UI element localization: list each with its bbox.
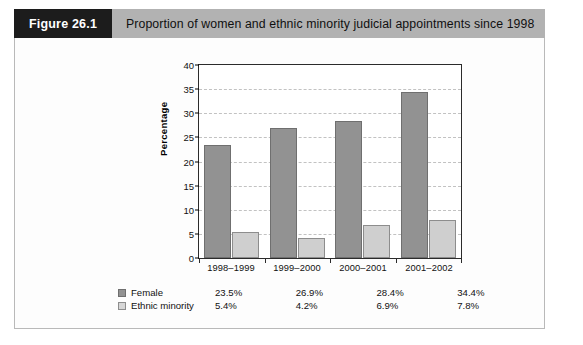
legend-value: 34.4%: [457, 287, 538, 298]
x-axis-labels: 1998–19991999–20002000–20012001–2002: [198, 263, 462, 273]
legend-values: 5.4%4.2%6.9%7.8%: [215, 300, 538, 311]
figure-number-tag: Figure 26.1: [14, 9, 112, 38]
plot-frame: 0510152025303540: [198, 64, 462, 259]
bar-female[interactable]: [204, 145, 231, 258]
bar-female[interactable]: [270, 128, 297, 258]
legend-row: Ethnic minority5.4%4.2%6.9%7.8%: [118, 299, 538, 312]
chart-area: Percentage 0510152025303540 1998–1999199…: [14, 38, 545, 329]
x-axis-tick-label: 1998–1999: [198, 263, 264, 273]
bar-ethnic-minority[interactable]: [232, 232, 259, 258]
y-axis-tick-mark: [195, 161, 199, 162]
bar-ethnic-minority[interactable]: [363, 225, 390, 258]
x-axis-tick-label: 2001–2002: [396, 263, 462, 273]
legend-value: 28.4%: [377, 287, 458, 298]
x-axis-tick-label: 1999–2000: [264, 263, 330, 273]
legend-value: 6.9%: [377, 300, 458, 311]
bar-group: [396, 65, 462, 258]
y-axis-tick-mark: [195, 233, 199, 234]
legend-value: 5.4%: [215, 300, 296, 311]
bar-female[interactable]: [401, 92, 428, 258]
figure-title: Proportion of women and ethnic minority …: [112, 9, 545, 38]
bar-ethnic-minority[interactable]: [298, 238, 325, 258]
bar-ethnic-minority[interactable]: [429, 220, 456, 258]
legend-value: 4.2%: [296, 300, 377, 311]
y-axis-tick-mark: [195, 89, 199, 90]
legend-swatch-ethnic-minority: [118, 302, 126, 310]
legend-values: 23.5%26.9%28.4%34.4%: [215, 287, 538, 298]
legend-series-name: Ethnic minority: [131, 300, 215, 311]
y-axis-tick-mark: [195, 113, 199, 114]
legend-value: 26.9%: [296, 287, 377, 298]
bar-group: [199, 65, 265, 258]
bar-group: [265, 65, 331, 258]
bar-groups: [199, 65, 461, 258]
x-axis-tick-label: 2000–2001: [330, 263, 396, 273]
legend-value: 7.8%: [457, 300, 538, 311]
figure-banner: Figure 26.1 Proportion of women and ethn…: [14, 9, 545, 38]
y-axis-label: Percentage: [158, 142, 169, 156]
bar-female[interactable]: [335, 121, 362, 258]
chart-legend-table: Female23.5%26.9%28.4%34.4%Ethnic minorit…: [118, 286, 538, 312]
legend-series-name: Female: [131, 287, 215, 298]
y-axis-tick-mark: [195, 185, 199, 186]
y-axis-tick-mark: [195, 137, 199, 138]
legend-value: 23.5%: [215, 287, 296, 298]
y-axis-tick-mark: [195, 209, 199, 210]
figure-root: Figure 26.1 Proportion of women and ethn…: [0, 0, 583, 345]
bar-group: [330, 65, 396, 258]
legend-swatch-female: [118, 289, 126, 297]
y-axis-tick-mark: [195, 65, 199, 66]
legend-row: Female23.5%26.9%28.4%34.4%: [118, 286, 538, 299]
